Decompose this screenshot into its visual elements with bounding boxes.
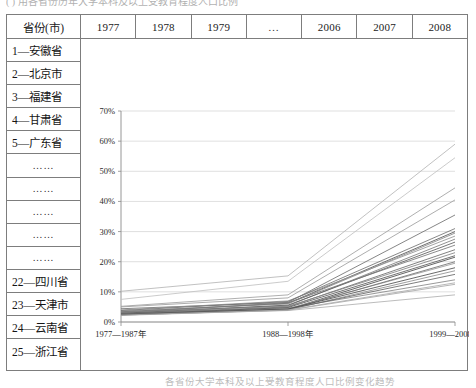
province-row: 3—福建省 xyxy=(7,85,80,108)
province-row: 5—广东省 xyxy=(7,131,80,154)
y-tick-label: 40% xyxy=(99,196,115,206)
province-row: 1—安徽省 xyxy=(7,39,80,62)
x-tick-label: 1977—1987年 xyxy=(95,329,147,339)
province-row: 4—甘肃省 xyxy=(7,108,80,131)
y-tick-label: 60% xyxy=(99,136,115,146)
header-cell-year-2: 1979 xyxy=(192,15,247,38)
province-row: 22—四川省 xyxy=(7,270,80,293)
y-tick-label: 50% xyxy=(99,166,115,176)
province-row-ellipsis: …… xyxy=(7,201,80,224)
province-year-table: 省份(市) 197719781979…200620072008 1—安徽省2—北… xyxy=(6,14,468,371)
province-row: 24—云南省 xyxy=(7,316,80,339)
y-tick-label: 20% xyxy=(99,257,115,267)
province-row: 2—北京市 xyxy=(7,62,80,85)
bottom-caption: 各省份大学本科及以上受教育程度人口比例变化趋势 xyxy=(110,376,450,388)
province-column: 1—安徽省2—北京市3—福建省4—甘肃省5—广东省…………………………22—四川… xyxy=(7,39,81,370)
trend-line-chart: 0%10%20%30%40%50%60%70%1977—1987年1988—19… xyxy=(81,39,469,372)
table-header-row: 省份(市) 197719781979…200620072008 xyxy=(7,15,467,39)
province-row-ellipsis: …… xyxy=(7,154,80,177)
y-tick-label: 70% xyxy=(99,106,115,116)
x-tick-label: 1988—1998年 xyxy=(262,329,314,339)
y-tick-label: 10% xyxy=(99,287,115,297)
y-tick-label: 30% xyxy=(99,227,115,237)
x-tick-label: 1999—2008年 xyxy=(429,329,469,339)
header-cell-province: 省份(市) xyxy=(7,15,81,38)
y-tick-label: 0% xyxy=(104,317,115,327)
province-row-ellipsis: …… xyxy=(7,247,80,270)
province-row: 23—天津市 xyxy=(7,293,80,316)
chart-area: 0%10%20%30%40%50%60%70%1977—1987年1988—19… xyxy=(81,39,467,370)
header-cell-year-6: 2008 xyxy=(413,15,467,38)
header-cell-year-5: 2007 xyxy=(357,15,412,38)
chart-series-line xyxy=(121,158,455,300)
province-row: 25—浙江省 xyxy=(7,339,80,362)
header-cell-year-0: 1977 xyxy=(81,15,136,38)
province-row-ellipsis: …… xyxy=(7,224,80,247)
header-cell-year-1: 1978 xyxy=(136,15,191,38)
province-row-ellipsis: …… xyxy=(7,178,80,201)
header-cell-year-3: … xyxy=(247,15,302,38)
top-caption: ( ) 用各省份历年大学本科及以上受教育程度人口比例 xyxy=(6,0,468,8)
header-cell-year-4: 2006 xyxy=(302,15,357,38)
